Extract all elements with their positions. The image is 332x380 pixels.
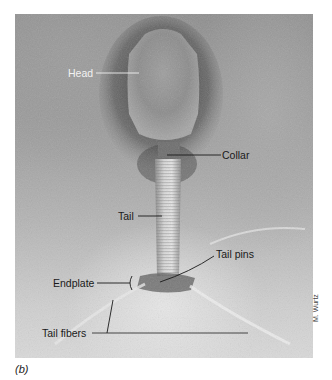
label-tail-pins: Tail pins (216, 248, 254, 260)
label-collar: Collar (222, 149, 249, 161)
label-tail: Tail (118, 210, 134, 222)
label-tail-fibers: Tail fibers (42, 327, 86, 339)
phage-illustration (15, 14, 313, 358)
label-endplate: Endplate (53, 277, 94, 289)
micrograph-photo: Head Collar Tail Tail pins Endplate Tail… (15, 14, 313, 358)
figure-caption: (b) (15, 363, 28, 375)
label-head: Head (68, 67, 93, 79)
photo-credit: M. Wurtz (312, 294, 319, 322)
